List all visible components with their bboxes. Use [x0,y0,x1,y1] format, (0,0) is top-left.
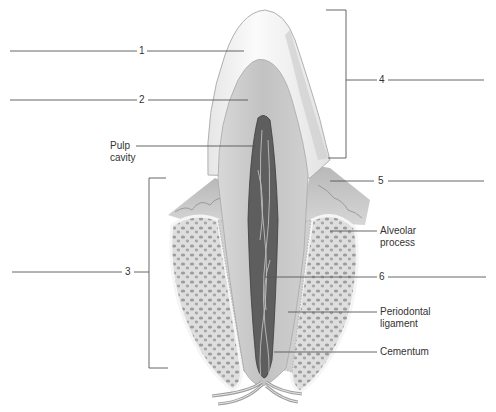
label-number-3: 3 [125,267,131,277]
label-number-4: 4 [379,75,385,85]
label-periodontal-ligament: Periodontal ligament [380,306,431,330]
label-number-5: 5 [378,176,384,186]
tooth-diagram: 1 2 3 4 5 6 Pulp cavity Alveolar process… [0,0,496,412]
label-alveolar-process: Alveolar process [380,225,416,249]
label-pulp-cavity: Pulp cavity [110,140,136,164]
label-cementum: Cementum [380,346,429,358]
label-number-6: 6 [379,272,385,282]
label-number-1: 1 [139,46,145,56]
label-number-2: 2 [139,95,145,105]
